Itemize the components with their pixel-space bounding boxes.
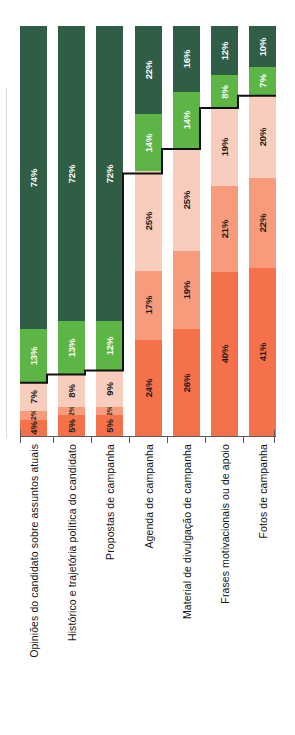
bar-1-segment-s2: 2% xyxy=(20,411,47,419)
bar-3-segment-s3: 9% xyxy=(96,370,123,407)
bar-2-segment-s5: 72% xyxy=(58,26,85,321)
bar-7-segment-s1: 41% xyxy=(249,268,276,436)
axis-tick-6 xyxy=(243,436,244,443)
category-label-text: Propostas de campanha xyxy=(104,444,116,560)
value-label: 2% xyxy=(30,411,38,419)
bar-7-segment-s5: 10% xyxy=(249,26,276,67)
bar-5: 16%14%25%19%26% xyxy=(173,26,200,436)
axis-tick-1 xyxy=(53,436,54,443)
bar-3: 72%12%9%2%5% xyxy=(96,26,123,436)
value-label: 24% xyxy=(144,379,154,397)
category-label-text: Material de divulgação de campanha xyxy=(181,444,193,619)
bar-4: 22%14%25%17%24% xyxy=(135,26,162,436)
bar-7: 10%7%20%22%41% xyxy=(249,26,276,436)
bar-6-segment-s4: 8% xyxy=(211,75,238,108)
value-label: 10% xyxy=(258,37,268,55)
category-label-3: Propostas de campanha xyxy=(96,444,123,729)
value-label: 20% xyxy=(258,127,268,145)
bar-2-segment-s4: 13% xyxy=(58,321,85,374)
value-label: 5% xyxy=(105,419,115,432)
bar-2: 72%13%8%2%5% xyxy=(58,26,85,436)
bar-1-segment-s4: 13% xyxy=(20,329,47,382)
page-rule-divider xyxy=(6,88,7,438)
bar-5-segment-s3: 25% xyxy=(173,149,200,252)
category-label-text: Frases motivacionais ou de apoio xyxy=(219,444,231,604)
value-label: 14% xyxy=(144,133,154,151)
value-label: 17% xyxy=(144,296,154,314)
category-label-text: Agenda de campanha xyxy=(143,444,155,549)
value-label: 4% xyxy=(29,421,39,434)
category-label-6: Frases motivacionais ou de apoio xyxy=(211,444,238,729)
bar-4-segment-s1: 24% xyxy=(135,340,162,436)
bar-3-segment-s2: 2% xyxy=(96,407,123,415)
category-label-text: Opiniões do candidato sobre assuntos atu… xyxy=(28,444,40,658)
axis-tick-5 xyxy=(205,436,206,443)
bar-2-segment-s3: 8% xyxy=(58,374,85,407)
value-label: 13% xyxy=(67,339,77,357)
axis-baseline xyxy=(20,436,276,437)
category-label-4: Agenda de campanha xyxy=(135,444,162,729)
bar-4-segment-s3: 25% xyxy=(135,171,162,272)
bar-1-segment-s5: 74% xyxy=(20,26,47,329)
bar-4-segment-s4: 14% xyxy=(135,114,162,170)
category-label-text: Histórico e trajetória política do candi… xyxy=(66,444,78,641)
value-label: 25% xyxy=(144,212,154,230)
axis-tick-4 xyxy=(167,436,168,443)
bar-7-segment-s2: 22% xyxy=(249,178,276,268)
category-label-1: Opiniões do candidato sobre assuntos atu… xyxy=(20,444,47,729)
value-label: 13% xyxy=(29,347,39,365)
value-label: 19% xyxy=(220,138,230,156)
bar-1-segment-s1: 4% xyxy=(20,420,47,436)
bar-5-segment-s4: 14% xyxy=(173,92,200,149)
bar-5-segment-s1: 26% xyxy=(173,329,200,436)
value-label: 22% xyxy=(144,61,154,79)
bar-4-segment-s2: 17% xyxy=(135,271,162,339)
axis-endcap-2 xyxy=(274,430,275,436)
value-label: 21% xyxy=(220,220,230,238)
bar-7-segment-s3: 20% xyxy=(249,96,276,178)
bar-2-segment-s2: 2% xyxy=(58,407,85,415)
bar-1-segment-s3: 7% xyxy=(20,383,47,412)
value-label: 72% xyxy=(67,164,77,182)
value-label: 19% xyxy=(182,281,192,299)
bar-3-segment-s5: 72% xyxy=(96,26,123,321)
bar-6-segment-s2: 21% xyxy=(211,186,238,272)
value-label: 7% xyxy=(258,75,268,88)
bar-3-segment-s1: 5% xyxy=(96,415,123,436)
value-label: 7% xyxy=(29,390,39,403)
category-label-2: Histórico e trajetória política do candi… xyxy=(58,444,85,729)
category-labels: Opiniões do candidato sobre assuntos atu… xyxy=(20,444,276,729)
value-label: 5% xyxy=(67,419,77,432)
bar-7-segment-s4: 7% xyxy=(249,67,276,96)
value-label: 74% xyxy=(29,168,39,186)
value-label: 2% xyxy=(68,407,76,415)
value-label: 9% xyxy=(105,382,115,395)
bar-6-segment-s5: 12% xyxy=(211,26,238,75)
value-label: 8% xyxy=(67,384,77,397)
bar-5-segment-s5: 16% xyxy=(173,26,200,92)
plot-area: 74%13%7%2%4%72%13%8%2%5%72%12%9%2%5%22%1… xyxy=(20,26,276,436)
axis-tick-3 xyxy=(129,436,130,443)
bar-5-segment-s2: 19% xyxy=(173,251,200,329)
value-label: 2% xyxy=(106,407,114,415)
category-label-7: Fotos de campanha xyxy=(249,444,276,729)
bar-1: 74%13%7%2%4% xyxy=(20,26,47,436)
value-label: 26% xyxy=(182,373,192,391)
value-label: 12% xyxy=(105,337,115,355)
bar-6: 12%8%19%21%40% xyxy=(211,26,238,436)
axis-tick-7 xyxy=(274,436,275,443)
value-label: 40% xyxy=(220,345,230,363)
bar-6-segment-s1: 40% xyxy=(211,272,238,436)
value-label: 14% xyxy=(182,111,192,129)
category-label-text: Fotos de campanha xyxy=(257,444,269,539)
value-label: 41% xyxy=(258,343,268,361)
category-label-5: Material de divulgação de campanha xyxy=(173,444,200,729)
bar-6-segment-s3: 19% xyxy=(211,108,238,186)
value-label: 16% xyxy=(182,50,192,68)
bar-2-segment-s1: 5% xyxy=(58,415,85,436)
value-label: 22% xyxy=(258,214,268,232)
axis-tick-2 xyxy=(91,436,92,443)
bar-3-segment-s4: 12% xyxy=(96,321,123,370)
axis-tick-0 xyxy=(20,436,21,443)
stacked-bar-chart: 74%13%7%2%4%72%13%8%2%5%72%12%9%2%5%22%1… xyxy=(0,0,295,735)
